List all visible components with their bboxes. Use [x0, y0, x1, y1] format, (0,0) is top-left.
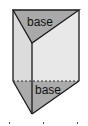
- triangular-prism-diagram: base base: [0, 0, 88, 126]
- top-base-label: base: [27, 15, 53, 29]
- bottom-tick-marks: [9, 122, 78, 124]
- bottom-base-label: base: [35, 83, 61, 97]
